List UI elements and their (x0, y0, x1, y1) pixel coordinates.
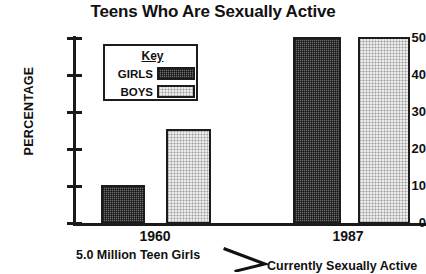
legend-swatch-girls (157, 67, 195, 80)
x-axis-label-1987: 1987 (288, 228, 408, 244)
legend-label-girls: GIRLS (118, 68, 153, 80)
legend-item-boys: BOYS (110, 84, 195, 99)
bar-boys-1987 (358, 37, 410, 224)
legend-key-box: Key GIRLS BOYS (103, 44, 198, 101)
chart-title: Teens Who Are Sexually Active (0, 2, 426, 22)
x-axis-label-1960: 1960 (95, 228, 215, 244)
bar-boys-1960 (166, 129, 211, 224)
y-axis-title: PERCENTAGE (22, 41, 36, 181)
chevron-right-icon (222, 246, 270, 272)
caption-left-text: 5.0 Million Teen Girls (76, 248, 200, 262)
legend-swatch-boys (157, 85, 195, 98)
legend-label-boys: BOYS (120, 86, 153, 98)
legend-item-girls: GIRLS (110, 66, 195, 81)
legend-title: Key (105, 49, 200, 63)
bar-girls-1987 (293, 37, 341, 224)
bar-girls-1960 (101, 185, 145, 224)
bar-chart: Teens Who Are Sexually Active 50 40 30 2… (0, 0, 426, 274)
caption-right-text: Currently Sexually Active (267, 259, 417, 273)
